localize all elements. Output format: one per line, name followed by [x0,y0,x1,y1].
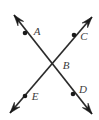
point-label-a: A [33,25,41,37]
point-dot-a [23,31,28,36]
point-dot-e [23,94,28,99]
point-label-b: B [63,59,70,71]
point-dot-c [72,33,77,38]
point-dot-d [71,92,76,97]
geometry-figure: A B C D E [0,0,99,120]
point-label-d: D [78,83,87,95]
point-label-c: C [80,30,88,42]
point-label-e: E [31,90,39,102]
geometry-canvas: A B C D E [0,0,99,120]
